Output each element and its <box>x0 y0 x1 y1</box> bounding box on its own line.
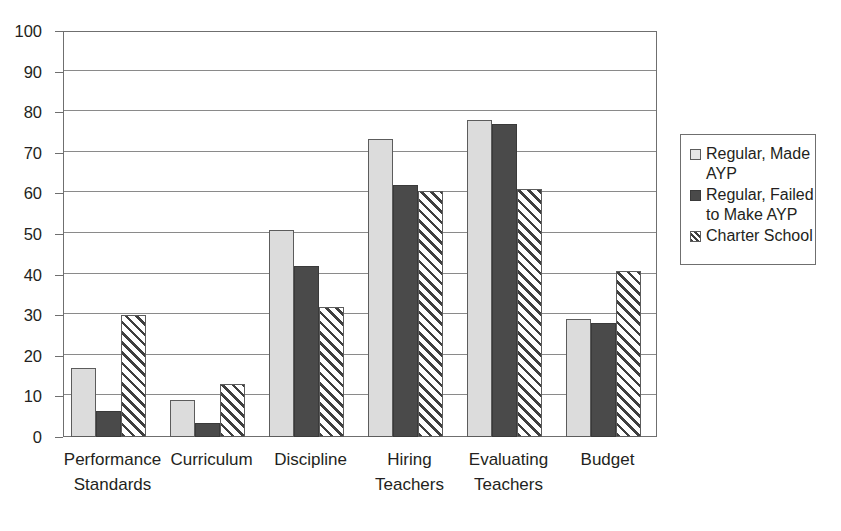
y-tick-mark <box>55 315 63 316</box>
y-tick-label: 0 <box>33 429 42 446</box>
y-tick-mark <box>55 437 63 438</box>
bar <box>96 411 121 437</box>
bar-group <box>360 31 459 437</box>
legend-item[interactable]: Regular, Made AYP <box>690 144 815 184</box>
legend-swatch-icon <box>690 190 701 201</box>
bar <box>269 230 294 437</box>
x-category-line: Teachers <box>447 472 570 497</box>
y-tick-mark <box>55 153 63 154</box>
bar <box>492 124 517 437</box>
y-tick-label: 60 <box>24 185 42 202</box>
legend-label: Charter School <box>706 226 813 246</box>
y-tick-mark <box>55 396 63 397</box>
y-tick-mark <box>55 234 63 235</box>
legend-item[interactable]: Charter School <box>690 226 815 246</box>
bar-group <box>558 31 657 437</box>
x-category-label: Budget <box>546 447 669 472</box>
y-tick-label: 50 <box>24 226 42 243</box>
y-tick-label: 70 <box>24 145 42 162</box>
bar-chart: 0102030405060708090100 PerformanceStanda… <box>0 0 841 531</box>
bar <box>294 266 319 437</box>
y-tick-mark <box>55 72 63 73</box>
bar <box>517 189 542 437</box>
bar <box>368 139 393 437</box>
bar <box>71 368 96 437</box>
bar <box>418 191 443 437</box>
y-tick-mark <box>55 193 63 194</box>
y-axis: 0102030405060708090100 <box>0 31 52 437</box>
y-tick-label: 100 <box>14 23 42 40</box>
bar <box>393 185 418 437</box>
chart-legend: Regular, Made AYPRegular, Failed to Make… <box>680 134 816 265</box>
y-tick-label: 40 <box>24 266 42 283</box>
bar <box>566 319 591 437</box>
bar-group <box>261 31 360 437</box>
y-tick-label: 20 <box>24 348 42 365</box>
bar <box>195 423 220 437</box>
y-tick-mark <box>55 112 63 113</box>
bar <box>467 120 492 437</box>
legend-label: Regular, Made AYP <box>706 144 814 184</box>
y-tick-label: 10 <box>24 388 42 405</box>
legend-swatch-icon <box>690 149 701 160</box>
y-tick-mark <box>55 275 63 276</box>
x-category-line: Budget <box>546 447 669 472</box>
y-tick-label: 80 <box>24 104 42 121</box>
x-category-line: Standards <box>51 472 174 497</box>
x-axis: PerformanceStandardsCurriculumDiscipline… <box>63 447 657 517</box>
bars-layer <box>63 31 657 437</box>
bar <box>616 271 641 437</box>
bar-group <box>162 31 261 437</box>
bar-group <box>459 31 558 437</box>
y-tick-label: 30 <box>24 307 42 324</box>
bar <box>220 384 245 437</box>
bar-group <box>63 31 162 437</box>
legend-swatch-icon <box>690 231 701 242</box>
y-tick-mark <box>55 356 63 357</box>
bar <box>591 323 616 437</box>
y-tick-mark <box>55 31 63 32</box>
bar <box>319 307 344 437</box>
legend-label: Regular, Failed to Make AYP <box>706 185 814 225</box>
y-tick-label: 90 <box>24 63 42 80</box>
bar <box>170 400 195 437</box>
bar <box>121 315 146 437</box>
legend-item[interactable]: Regular, Failed to Make AYP <box>690 185 815 225</box>
